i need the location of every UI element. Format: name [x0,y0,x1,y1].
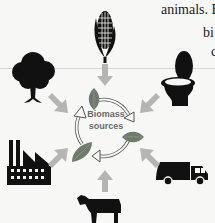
leaf-top-icon [87,88,101,110]
text-line-2: bi [203,25,214,41]
toilet-icon [158,50,198,108]
arrow-from-corn-icon [97,64,113,88]
text-line-1: animals. B [161,2,215,18]
center-label: Biomass sources [78,108,134,132]
arrow-from-cow-icon [97,170,113,194]
text-line-3: c [211,44,215,60]
leaf-bottom-left-icon [72,142,92,162]
arrow-from-tree-icon [48,93,70,115]
leaf-right-icon [122,130,144,144]
garbage-truck-icon [156,158,210,186]
cow-icon [77,193,123,223]
center-label-line-1: Biomass [78,108,134,120]
center-label-line-2: sources [78,120,134,132]
arrow-from-factory-icon [48,146,70,168]
corn-icon [90,8,120,64]
factory-icon [7,138,51,186]
